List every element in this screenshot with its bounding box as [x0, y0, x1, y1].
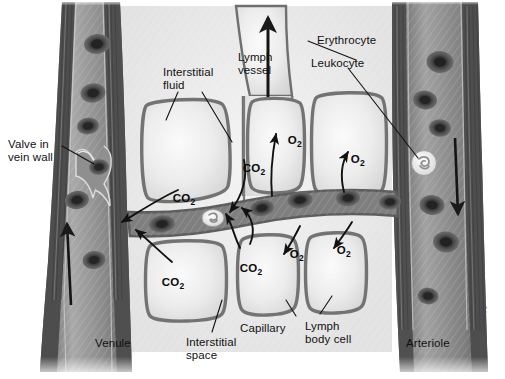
gas-label-co2-mid-upper: CO2 — [236, 150, 265, 177]
venule-vessel — [30, 0, 138, 379]
gas-formula: O — [290, 248, 299, 260]
capillary-leukocyte — [202, 209, 224, 226]
label-interstitial-space: Interstitial space — [186, 336, 236, 361]
gas-subscript: 2 — [190, 197, 195, 207]
gas-formula: CO — [162, 276, 180, 288]
gas-subscript: 2 — [360, 158, 365, 168]
label-valve-in-vein-wall: Valve in vein wall — [8, 138, 53, 163]
label-interstitial-fluid: Interstitial fluid — [163, 66, 213, 91]
label-arteriole: Arteriole — [406, 337, 450, 350]
gas-subscript: 2 — [346, 249, 351, 259]
gas-label-co2-mid-lower: CO2 — [233, 250, 262, 277]
gas-formula: O — [288, 134, 297, 146]
gas-label-o2-upper-right: O2 — [344, 141, 365, 168]
gas-label-o2-upper-left: O2 — [281, 122, 302, 149]
gas-formula: O — [351, 153, 360, 165]
capillary-exchange-figure: Valve in vein wall Interstitial fluid Ly… — [0, 0, 505, 379]
gas-subscript: 2 — [260, 167, 265, 177]
gas-subscript: 2 — [179, 281, 184, 291]
gas-label-o2-lower-right: O2 — [330, 232, 351, 259]
label-capillary: Capillary — [240, 322, 286, 335]
gas-label-o2-lower-left: O2 — [283, 236, 304, 263]
gas-subscript: 2 — [257, 267, 262, 277]
gas-subscript: 2 — [299, 253, 304, 263]
label-venule: Venule — [95, 337, 131, 350]
gas-formula: O — [337, 244, 346, 256]
label-lymph-vessel: Lymph vessel — [238, 51, 273, 76]
label-erythrocyte: Erythrocyte — [317, 34, 376, 47]
artist-signature: artist — [472, 305, 491, 334]
label-lymph-body-cell: Lymph body cell — [305, 320, 351, 345]
gas-formula: CO — [243, 162, 261, 174]
gas-formula: CO — [240, 262, 258, 274]
gas-subscript: 2 — [297, 139, 302, 149]
gas-label-co2-left-upper: CO2 — [166, 180, 195, 207]
gas-label-co2-left-lower: CO2 — [155, 264, 184, 291]
label-leukocyte: Leukocyte — [311, 57, 364, 70]
gas-formula: CO — [173, 192, 191, 204]
